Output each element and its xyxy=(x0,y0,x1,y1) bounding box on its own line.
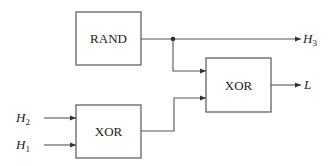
h3-label: H3 xyxy=(302,31,317,48)
rand-label: RAND xyxy=(90,31,127,46)
l-label: L xyxy=(303,77,311,92)
xor1-label: XOR xyxy=(95,124,123,139)
h1-label: H1 xyxy=(15,137,30,154)
xor1-block: XOR xyxy=(76,105,141,158)
h2-label: H2 xyxy=(15,110,30,127)
xor2-block: XOR xyxy=(206,58,271,112)
block-diagram: RAND XOR XOR H2 H1 H3 L xyxy=(0,0,330,166)
rand-block: RAND xyxy=(76,12,141,65)
xor2-label: XOR xyxy=(225,78,253,93)
rand-to-xor2-wire xyxy=(173,39,206,71)
xor1-to-xor2-wire xyxy=(141,98,206,131)
